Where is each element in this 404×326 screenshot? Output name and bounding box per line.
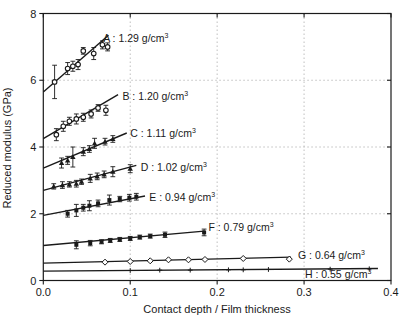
g-marker bbox=[147, 258, 153, 264]
g-marker bbox=[165, 257, 171, 263]
a-marker bbox=[71, 64, 76, 69]
series-label-G: G : 0.64 g/cm3 bbox=[298, 249, 365, 261]
e-marker bbox=[107, 198, 111, 202]
series-C bbox=[43, 133, 126, 168]
e-marker bbox=[134, 195, 138, 199]
a-marker bbox=[52, 80, 57, 85]
series-B bbox=[43, 95, 118, 141]
modulus-vs-depth-figure: 0.00.10.20.30.402468 A : 1.29 g/cm3B : 1… bbox=[0, 0, 404, 326]
b-marker bbox=[74, 117, 79, 122]
b-marker bbox=[61, 124, 66, 129]
h-marker bbox=[241, 267, 246, 272]
h-marker bbox=[266, 267, 271, 272]
f-marker bbox=[88, 241, 92, 245]
series-label-B: B : 1.20 g/cm3 bbox=[122, 90, 188, 102]
series-label-A: A : 1.29 g/cm3 bbox=[103, 32, 168, 44]
a-marker bbox=[65, 66, 70, 71]
series-A bbox=[43, 35, 110, 98]
series-E bbox=[43, 193, 145, 217]
g-marker bbox=[202, 256, 208, 262]
y-tick-label: 8 bbox=[30, 8, 36, 20]
b-marker bbox=[89, 112, 94, 117]
h-marker bbox=[157, 268, 162, 273]
f-marker bbox=[138, 235, 142, 239]
fit-line-F bbox=[43, 231, 204, 245]
e-marker bbox=[127, 196, 131, 200]
f-marker bbox=[128, 236, 132, 240]
c-marker bbox=[92, 141, 97, 146]
b-marker bbox=[104, 108, 109, 113]
x-axis-title: Contact depth / Film thickness bbox=[143, 303, 291, 315]
y-tick-label: 6 bbox=[30, 74, 36, 86]
b-marker bbox=[54, 132, 59, 137]
scatter-plot: 0.00.10.20.30.402468 A : 1.29 g/cm3B : 1… bbox=[0, 0, 404, 326]
series-D bbox=[43, 165, 136, 191]
h-marker bbox=[188, 268, 193, 273]
e-marker bbox=[66, 212, 70, 216]
x-tick-label: 0.3 bbox=[296, 286, 311, 298]
g-marker bbox=[185, 257, 191, 263]
h-marker bbox=[226, 267, 231, 272]
series-label-C: C : 1.11 g/cm3 bbox=[130, 127, 196, 139]
h-marker bbox=[128, 268, 133, 273]
b-marker bbox=[81, 115, 86, 120]
series-label-H: H : 0.55 g/cm3 bbox=[305, 268, 371, 280]
series-label-D: D : 1.02 g/cm3 bbox=[141, 161, 207, 173]
a-marker bbox=[105, 45, 110, 50]
y-axis-title: Reduced modulus (GPa) bbox=[1, 87, 13, 208]
f-marker bbox=[202, 230, 206, 234]
y-tick-label: 4 bbox=[30, 141, 36, 153]
f-marker bbox=[108, 238, 112, 242]
series-G bbox=[43, 255, 292, 265]
e-marker bbox=[118, 197, 122, 201]
e-marker bbox=[87, 204, 91, 208]
f-marker bbox=[100, 240, 104, 244]
series-label-F: F : 0.79 g/cm3 bbox=[208, 221, 273, 233]
g-marker bbox=[127, 258, 133, 264]
a-marker bbox=[76, 62, 81, 67]
series-label-E: E : 0.94 g/cm3 bbox=[149, 191, 215, 203]
f-marker bbox=[148, 234, 152, 238]
x-tick-label: 0.0 bbox=[36, 286, 51, 298]
f-marker bbox=[163, 233, 167, 237]
d-marker bbox=[51, 184, 56, 189]
e-marker bbox=[96, 201, 100, 205]
fit-line-C bbox=[43, 133, 126, 168]
e-marker bbox=[74, 208, 78, 212]
y-tick-label: 2 bbox=[30, 208, 36, 220]
a-marker bbox=[91, 51, 96, 56]
g-marker bbox=[102, 259, 108, 265]
series-F bbox=[43, 229, 206, 249]
a-marker bbox=[81, 49, 86, 54]
b-marker bbox=[67, 119, 72, 124]
x-tick-label: 0.2 bbox=[210, 286, 225, 298]
g-marker bbox=[240, 255, 246, 261]
f-marker bbox=[118, 237, 122, 241]
x-tick-label: 0.4 bbox=[383, 286, 398, 298]
x-tick-label: 0.1 bbox=[123, 286, 138, 298]
data-layer bbox=[43, 35, 378, 273]
e-marker bbox=[81, 206, 85, 210]
series-label-layer: A : 1.29 g/cm3B : 1.20 g/cm3C : 1.11 g/c… bbox=[103, 32, 371, 280]
y-tick-label: 0 bbox=[30, 275, 36, 287]
b-marker bbox=[96, 106, 101, 111]
f-marker bbox=[74, 243, 78, 247]
